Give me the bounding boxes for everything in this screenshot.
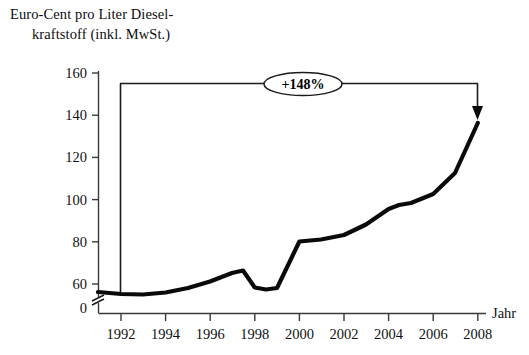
x-tick-label-0: 1992 <box>107 326 136 342</box>
y-tick-label-2: 120 <box>65 149 87 165</box>
data-line-diesel-price <box>98 123 478 295</box>
x-tick-label-6: 2004 <box>374 326 404 342</box>
x-tick-label-1: 1994 <box>151 326 181 342</box>
x-tick-label-5: 2002 <box>330 326 359 342</box>
diesel-price-chart: Euro-Cent pro Liter Diesel- kraftstoff (… <box>0 0 529 355</box>
y-tick-label-3: 100 <box>65 192 87 208</box>
x-axis-name: Jahr <box>492 305 516 321</box>
y-tick-label-6: 0 <box>80 300 87 316</box>
annotation-label: +148% <box>282 77 325 92</box>
y-tick-label-5: 60 <box>73 276 88 292</box>
annotation-arrow-icon <box>472 106 483 120</box>
x-tick-label-4: 2000 <box>285 326 314 342</box>
y-tick-label-1: 140 <box>65 107 87 123</box>
chart-plot-area: 160 140 120 100 80 60 0 1992 1994 1996 1… <box>0 0 529 355</box>
x-tick-label-8: 2008 <box>463 326 492 342</box>
y-tick-label-0: 160 <box>65 65 87 81</box>
x-tick-label-3: 1998 <box>240 326 269 342</box>
x-tick-label-7: 2006 <box>419 326 448 342</box>
y-tick-label-4: 80 <box>73 234 88 250</box>
x-tick-label-2: 1996 <box>196 326 225 342</box>
